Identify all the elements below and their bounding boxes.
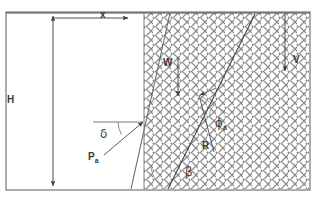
- H-dimension-label: H: [7, 95, 14, 105]
- delta-angle-label: δ: [100, 128, 107, 140]
- hatched-backfill-soil: [144, 13, 309, 189]
- diagram-svg: [0, 0, 316, 202]
- phi-subscript: a: [223, 124, 227, 131]
- Pa-glyph: P: [88, 151, 95, 162]
- beta-angle-label: β: [185, 166, 193, 178]
- V-vector-label: V: [293, 55, 300, 65]
- figure-canvas: x H W V R β δ ϕa Pa: [0, 0, 316, 202]
- x-dimension-label: x: [100, 10, 106, 20]
- phi-glyph: ϕ: [215, 116, 223, 130]
- phi-angle-label: ϕa: [215, 117, 227, 131]
- Pa-subscript: a: [95, 157, 99, 164]
- W-weight-label: W: [163, 58, 172, 68]
- Pa-thrust-label: Pa: [88, 152, 99, 164]
- R-reaction-label: R: [202, 141, 209, 151]
